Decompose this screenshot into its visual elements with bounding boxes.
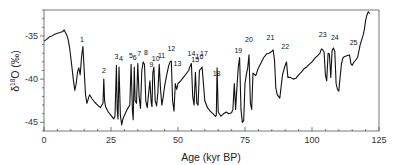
event-label-9: 9 xyxy=(150,61,154,68)
x-tick-label: 125 xyxy=(371,135,386,145)
event-label-23: 23 xyxy=(319,31,327,38)
chart: 0255075100125 -35-40-45 1234567891011121… xyxy=(0,0,394,165)
event-annotations: 1234567891011121314151617181920212223242… xyxy=(80,31,357,77)
event-label-12: 12 xyxy=(167,45,175,52)
y-tick-label: -35 xyxy=(25,31,38,41)
event-label-1: 1 xyxy=(80,36,84,43)
event-label-18: 18 xyxy=(213,70,221,77)
x-tick-label: 25 xyxy=(106,135,116,145)
event-label-25: 25 xyxy=(350,39,358,46)
y-tick-label: -40 xyxy=(25,74,38,84)
event-label-8: 8 xyxy=(144,49,148,56)
y-axis-title: δ18O (‰) xyxy=(9,50,21,92)
event-label-21: 21 xyxy=(267,34,275,41)
y-axis: -35-40-45 xyxy=(25,10,44,131)
event-label-7: 7 xyxy=(137,50,141,57)
y-tick-label: -45 xyxy=(25,117,38,127)
x-tick-label: 75 xyxy=(240,135,250,145)
event-label-20: 20 xyxy=(245,36,253,43)
x-tick-label: 0 xyxy=(41,135,46,145)
x-tick-label: 100 xyxy=(304,135,319,145)
event-label-4: 4 xyxy=(119,55,123,62)
x-tick-label: 50 xyxy=(173,135,183,145)
event-label-19: 19 xyxy=(234,47,242,54)
event-label-17: 17 xyxy=(200,50,208,57)
event-label-3: 3 xyxy=(114,53,118,60)
event-label-2: 2 xyxy=(102,67,106,74)
x-axis: 0255075100125 xyxy=(41,127,386,145)
event-label-11: 11 xyxy=(158,52,165,59)
event-label-22: 22 xyxy=(281,43,289,50)
event-label-24: 24 xyxy=(331,34,339,41)
x-axis-title: Age (kyr BP) xyxy=(181,151,241,163)
y-axis-title-rest: O (‰) xyxy=(9,50,21,79)
event-label-13: 13 xyxy=(174,60,182,67)
series-line-d18o xyxy=(44,12,370,125)
event-label-6: 6 xyxy=(133,54,137,61)
